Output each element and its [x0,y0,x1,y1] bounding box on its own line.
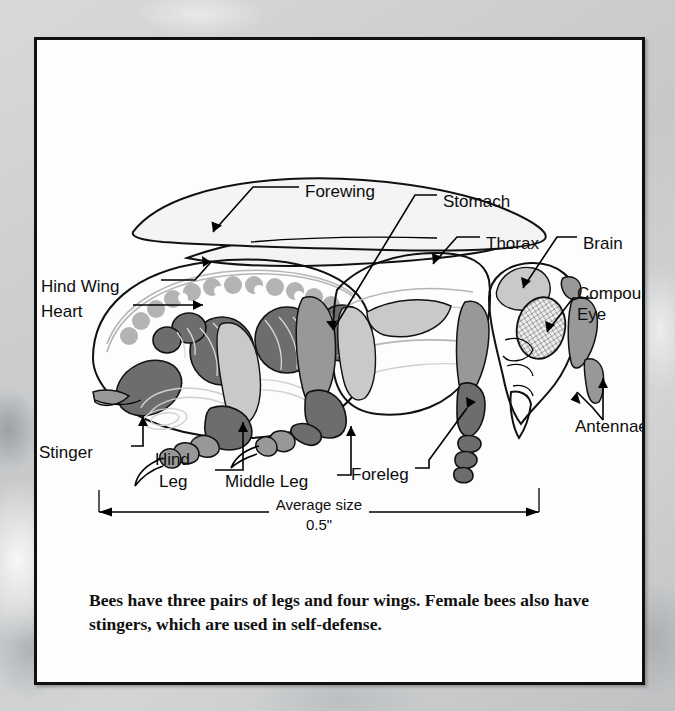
label-hind-leg: Hind [155,450,190,469]
crop [367,300,451,337]
bee-anatomy-figure: Forewing Stomach Thorax Brain Compound E… [37,40,642,540]
label-compound-eye-line2: Eye [577,305,606,324]
label-stinger: Stinger [39,443,93,462]
foreleg [454,301,489,483]
dimension-arrow-right [526,508,539,517]
label-forewing: Forewing [305,182,375,201]
bee-illustration: Forewing Stomach Thorax Brain Compound E… [37,40,642,540]
figure-caption: Bees have three pairs of legs and four w… [89,588,589,636]
label-middle-leg: Middle Leg [225,472,308,491]
label-hind-wing: Hind Wing [41,277,119,296]
label-brain: Brain [583,234,623,253]
diagram-panel: Forewing Stomach Thorax Brain Compound E… [34,37,645,685]
label-stomach: Stomach [443,192,510,211]
label-heart: Heart [41,302,83,321]
average-size-dimension: Average size 0.5" [99,488,539,533]
dimension-arrow-left [99,508,112,517]
label-compound-eye: Compound [577,284,642,303]
organ-lobe [153,327,181,353]
dimension-value: 0.5" [306,516,332,533]
dimension-label: Average size [276,496,362,513]
label-foreleg: Foreleg [351,465,409,484]
label-thorax: Thorax [486,234,539,253]
label-antennae: Antennae [575,417,642,436]
label-hind-leg-line2: Leg [159,472,187,491]
